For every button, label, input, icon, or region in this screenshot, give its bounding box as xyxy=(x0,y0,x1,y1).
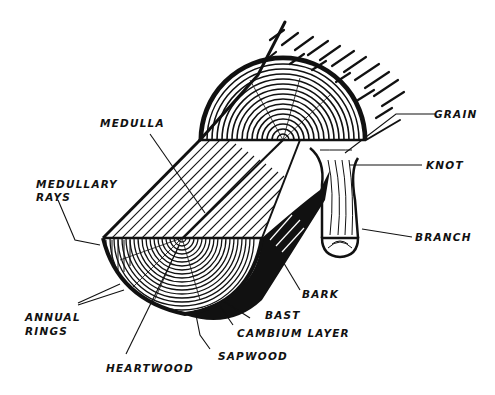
label-medullary-rays-line1: MEDULLARY xyxy=(36,178,118,191)
label-grain: GRAIN xyxy=(434,108,478,121)
label-medullary-rays-line2: RAYS xyxy=(36,191,71,204)
label-knot: KNOT xyxy=(426,159,464,172)
leader-lines xyxy=(58,114,436,354)
label-cambium-layer: CAMBIUM LAYER xyxy=(237,327,350,340)
label-heartwood: HEARTWOOD xyxy=(106,362,194,375)
label-sapwood: SAPWOOD xyxy=(218,350,288,363)
log-structure-diagram: MEDULLA MEDULLARY RAYS ANNUAL RINGS HEAR… xyxy=(0,0,495,395)
label-bark: BARK xyxy=(302,288,339,301)
label-branch: BRANCH xyxy=(415,231,472,244)
label-annual-rings-line1: ANNUAL xyxy=(25,311,81,324)
label-medulla: MEDULLA xyxy=(100,117,165,130)
label-bast: BAST xyxy=(265,309,301,322)
label-annual-rings-line2: RINGS xyxy=(25,325,68,338)
